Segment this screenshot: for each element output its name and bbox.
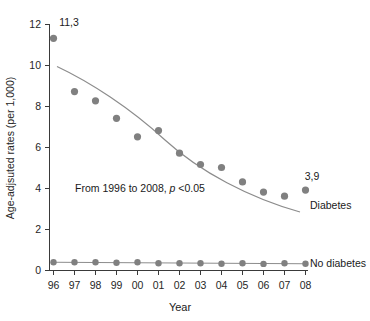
data-point	[71, 88, 78, 95]
x-tick-label-99: 99	[111, 279, 123, 291]
y-tick-label-6: 6	[35, 141, 41, 153]
data-point	[71, 259, 77, 265]
x-axis-ticks	[54, 271, 306, 276]
data-point	[155, 127, 162, 134]
x-tick-label-07: 07	[279, 279, 291, 291]
data-point	[281, 260, 287, 266]
data-point	[92, 97, 99, 104]
data-point	[176, 150, 183, 157]
y-tick-label-4: 4	[35, 182, 41, 194]
data-point	[197, 161, 204, 168]
data-point	[176, 260, 182, 266]
chart-container: 12 10 8 6 4 2 0 96 97 98 99 00 01 0	[0, 0, 370, 321]
x-tick-label-02: 02	[174, 279, 186, 291]
data-point	[50, 35, 57, 42]
x-tick-label-98: 98	[90, 279, 102, 291]
x-tick-label-06: 06	[258, 279, 270, 291]
y-tick-label-10: 10	[29, 59, 41, 71]
annotation-prefix: From 1996 to 2008,	[75, 182, 170, 194]
data-point	[302, 261, 308, 267]
data-point	[155, 260, 161, 266]
x-tick-label-08: 08	[300, 279, 312, 291]
data-point	[281, 193, 288, 200]
data-point	[260, 189, 267, 196]
y-tick-label-0: 0	[35, 264, 41, 276]
data-point	[239, 178, 246, 185]
x-axis-title: Year	[169, 301, 192, 313]
x-tick-label-96: 96	[48, 279, 60, 291]
data-point	[134, 259, 140, 265]
series-label-no-diabetes: No diabetes	[310, 257, 366, 269]
data-label-first: 11,3	[59, 16, 79, 28]
data-point	[92, 259, 98, 265]
data-point	[302, 187, 309, 194]
data-point	[113, 115, 120, 122]
y-axis-title: Age-adjsuted rates (per 1,000)	[4, 77, 16, 219]
data-point	[134, 133, 141, 140]
significance-annotation: From 1996 to 2008, p <0.05	[75, 182, 205, 194]
y-tick-label-8: 8	[35, 100, 41, 112]
data-point	[260, 261, 266, 267]
x-tick-label-05: 05	[237, 279, 249, 291]
series-label-diabetes: Diabetes	[310, 199, 351, 211]
annotation-suffix: <0.05	[175, 182, 205, 194]
data-point	[113, 260, 119, 266]
data-label-last: 3,9	[305, 170, 320, 182]
x-tick-label-03: 03	[195, 279, 207, 291]
data-point	[239, 260, 245, 266]
x-tick-label-00: 00	[132, 279, 144, 291]
x-tick-label-01: 01	[153, 279, 165, 291]
data-point	[218, 164, 225, 171]
y-tick-label-12: 12	[29, 18, 41, 30]
y-axis-ticks	[45, 25, 50, 271]
y-tick-label-2: 2	[35, 223, 41, 235]
x-tick-label-04: 04	[216, 279, 228, 291]
data-point	[50, 259, 56, 265]
data-point	[197, 260, 203, 266]
data-point	[218, 261, 224, 267]
x-tick-label-97: 97	[69, 279, 81, 291]
line-chart-plot: 12 10 8 6 4 2 0 96 97 98 99 00 01 0	[0, 0, 370, 321]
diabetes-series-markers	[50, 35, 309, 200]
